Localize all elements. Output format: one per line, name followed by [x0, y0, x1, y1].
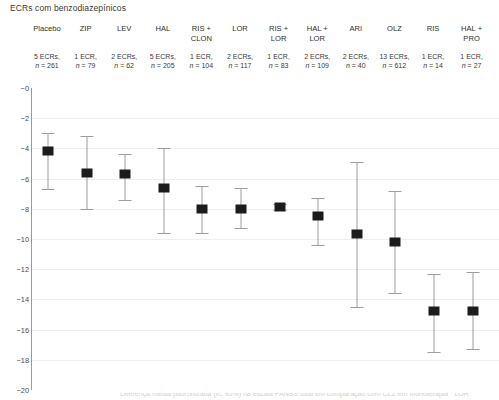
gridline — [32, 360, 499, 361]
data-point-marker[interactable] — [120, 170, 131, 179]
column-n-value: n = 27 — [445, 61, 499, 70]
error-bar-cap-lower — [466, 349, 479, 350]
gridline — [32, 299, 499, 300]
data-point-marker[interactable] — [81, 168, 92, 177]
error-bar-cap-upper — [42, 133, 55, 134]
error-bar-cap-lower — [350, 307, 363, 308]
y-axis-tick-label: −2 — [3, 114, 29, 123]
gridline — [32, 209, 499, 210]
data-point-marker[interactable] — [158, 183, 169, 192]
error-bar-cap-lower — [196, 233, 209, 234]
y-axis-tick-label: −6 — [3, 174, 29, 183]
error-bar-cap-lower — [389, 293, 402, 294]
error-bar-cap-lower — [312, 245, 325, 246]
y-axis-tick-label: −8 — [3, 204, 29, 213]
error-bar-cap-lower — [235, 228, 248, 229]
data-point-marker[interactable] — [313, 212, 324, 221]
y-axis-tick-label: −10 — [3, 235, 29, 244]
y-axis-tick-label: −16 — [3, 325, 29, 334]
error-bar-line — [48, 133, 49, 189]
footer-caption-cropped: Diferença média padronizada (IC 95%) na … — [0, 393, 499, 400]
forest-plot-chart: ECRs com benzodiazepínicos Placebo5 ECRs… — [0, 0, 499, 400]
error-bar-cap-upper — [428, 274, 441, 275]
gridline — [32, 179, 499, 180]
data-point-marker[interactable] — [197, 204, 208, 213]
error-bar-cap-upper — [312, 198, 325, 199]
error-bar-cap-upper — [466, 272, 479, 273]
column-header-label: HAL + PRO — [445, 24, 499, 43]
data-point-marker[interactable] — [236, 204, 247, 213]
data-point-marker[interactable] — [351, 230, 362, 239]
error-bar-cap-upper — [80, 136, 93, 137]
error-bar-cap-lower — [119, 200, 132, 201]
gridline — [32, 269, 499, 270]
data-point-marker[interactable] — [390, 238, 401, 247]
column-ecr-count: 1 ECR, — [445, 52, 499, 61]
data-point-marker[interactable] — [467, 306, 478, 315]
gridline — [32, 148, 499, 149]
y-axis-tick-label: −12 — [3, 265, 29, 274]
error-bar-cap-upper — [196, 186, 209, 187]
error-bar-cap-lower — [80, 209, 93, 210]
column-header-hal-plus-pro: HAL + PRO — [445, 24, 499, 43]
error-bar-cap-upper — [350, 162, 363, 163]
data-point-marker[interactable] — [43, 147, 54, 156]
data-point-marker[interactable] — [274, 203, 285, 212]
plot-inner — [32, 88, 499, 390]
column-headers: Placebo5 ECRs,n = 261ZIP1 ECR,n = 79LEV2… — [0, 24, 499, 82]
gridline — [32, 118, 499, 119]
y-axis-tick-label: −0 — [3, 84, 29, 93]
y-axis-tick-label: −18 — [3, 355, 29, 364]
gridline — [32, 239, 499, 240]
footer-caption-text: Diferença média padronizada (IC 95%) na … — [120, 393, 469, 397]
data-point-marker[interactable] — [429, 307, 440, 316]
plot-area — [31, 88, 499, 390]
y-axis-tick-label: −14 — [3, 295, 29, 304]
column-study-counts: 1 ECR,n = 27 — [445, 52, 499, 71]
y-axis-tick-labels: −0−2−4−6−8−10−12−14−16−18−20 — [0, 88, 29, 390]
error-bar-cap-lower — [157, 233, 170, 234]
error-bar-cap-upper — [235, 188, 248, 189]
error-bar-cap-upper — [389, 191, 402, 192]
error-bar-line — [318, 198, 319, 245]
gridline — [32, 330, 499, 331]
error-bar-cap-lower — [42, 189, 55, 190]
y-axis-tick-label: −4 — [3, 144, 29, 153]
error-bar-cap-upper — [119, 154, 132, 155]
error-bar-cap-upper — [157, 148, 170, 149]
error-bar-cap-lower — [428, 352, 441, 353]
chart-title: ECRs com benzodiazepínicos — [10, 3, 126, 13]
